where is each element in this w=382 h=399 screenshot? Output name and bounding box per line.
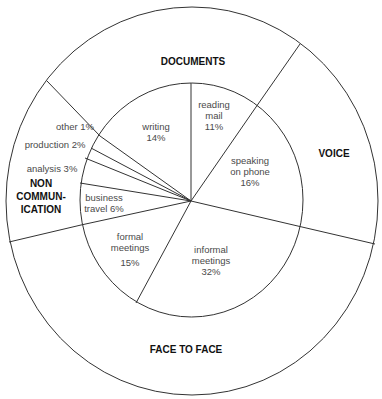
label-production: production 2% xyxy=(25,139,86,150)
label-writing-2: 14% xyxy=(146,132,166,143)
label-non-communication-2: COMMUN- xyxy=(16,191,65,202)
divider-voice-facetoface xyxy=(302,227,375,244)
label-documents: DOCUMENTS xyxy=(161,56,226,67)
label-other: other 1% xyxy=(56,121,95,132)
label-speaking-3: 16% xyxy=(240,177,260,188)
nested-pie-chart: DOCUMENTS VOICE FACE TO FACE NON COMMUN-… xyxy=(0,0,382,399)
label-non-communication-3: ICATION xyxy=(21,204,61,215)
label-informal-1: informal xyxy=(194,244,228,255)
label-formal-3: 15% xyxy=(120,257,140,268)
divider-documents-voice xyxy=(256,44,300,107)
label-informal-3: 32% xyxy=(201,266,221,277)
label-formal-2: meetings xyxy=(111,242,150,253)
label-analysis: analysis 3% xyxy=(27,163,78,174)
label-formal-1: formal xyxy=(117,231,143,242)
label-reading-mail-3: 11% xyxy=(205,121,224,132)
label-reading-mail-2: mail xyxy=(205,110,222,121)
divider-facetoface-noncomm xyxy=(9,225,81,242)
label-writing-1: writing xyxy=(141,121,169,132)
label-business-travel-2: travel 6% xyxy=(84,203,124,214)
label-speaking-1: speaking xyxy=(231,155,269,166)
label-face-to-face: FACE TO FACE xyxy=(150,344,223,355)
label-reading-mail-1: reading xyxy=(198,99,230,110)
label-speaking-2: on phone xyxy=(230,166,270,177)
divider-speaking-informal xyxy=(191,201,302,227)
label-business-travel-1: business xyxy=(85,192,123,203)
label-voice: VOICE xyxy=(318,148,349,159)
label-informal-2: meetings xyxy=(192,255,231,266)
label-non-communication-1: NON xyxy=(30,178,52,189)
